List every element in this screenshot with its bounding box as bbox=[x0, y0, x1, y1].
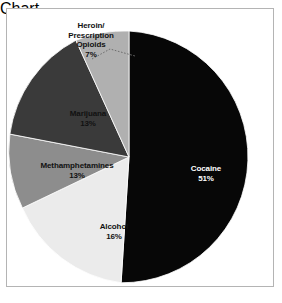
pie-label-heroin-line2: Prescription bbox=[54, 31, 128, 41]
pie-svg bbox=[7, 9, 275, 288]
pie-label-methamphetamines: Methamphetamines 13% bbox=[25, 161, 129, 180]
pie-label-heroin-line3: Opioids bbox=[54, 40, 128, 50]
pie-value-methamphetamines: 13% bbox=[25, 171, 129, 181]
chart-frame: Heroin/ Prescription Opioids 7% Marijuan… bbox=[6, 8, 274, 287]
pie-label-methamphetamines-name: Methamphetamines bbox=[25, 161, 129, 171]
pie-label-cocaine-name: Cocaine bbox=[175, 164, 237, 174]
pie-value-alcohol: 16% bbox=[83, 232, 145, 242]
pie-slice-cocaine[interactable] bbox=[121, 31, 248, 283]
pie-chart bbox=[7, 9, 275, 288]
pie-label-marijuana-name: Marijuana bbox=[53, 109, 123, 119]
pie-label-marijuana: Marijuana 13% bbox=[53, 109, 123, 128]
pie-label-alcohol-name: Alcohol bbox=[83, 222, 145, 232]
pie-label-heroin-prescription-opioids: Heroin/ Prescription Opioids 7% bbox=[54, 21, 128, 59]
pie-value-heroin-prescription-opioids: 7% bbox=[54, 50, 128, 60]
pie-label-cocaine: Cocaine 51% bbox=[175, 164, 237, 183]
pie-value-marijuana: 13% bbox=[53, 119, 123, 129]
pie-label-heroin-line1: Heroin/ bbox=[54, 21, 128, 31]
pie-value-cocaine: 51% bbox=[175, 174, 237, 184]
pie-label-alcohol: Alcohol 16% bbox=[83, 222, 145, 241]
